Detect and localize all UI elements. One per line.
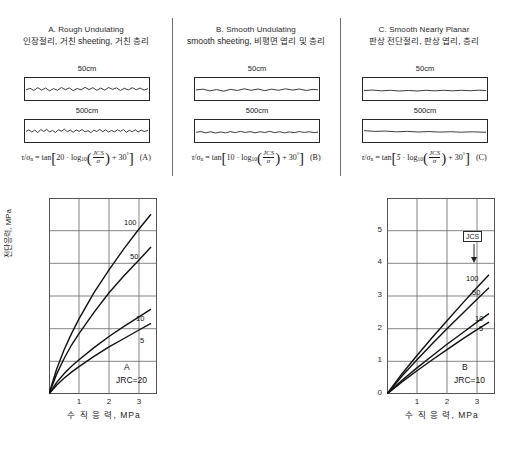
formula-c-frac-num: JCS	[429, 150, 440, 157]
formula-b-coefficient: 10	[227, 153, 235, 162]
chart-a-curve-label-10: 10	[136, 314, 144, 323]
dimension-label: 50cm	[244, 64, 270, 73]
formula-b-tag: (B)	[310, 153, 321, 162]
formula-b-frac-num: JCS	[263, 150, 274, 157]
dimension-50cm: 50cm	[24, 66, 150, 77]
formula-c-lhs-den-sub: n	[370, 156, 373, 162]
column-b: B. Smooth Undulating smooth sheeting, 비평…	[172, 0, 340, 452]
profile-trace-smooth-undulating	[195, 78, 319, 100]
formula-a-lhs-den-sub: n	[30, 156, 33, 162]
chart-a-curve-label-5: 5	[140, 336, 144, 345]
dimension-500cm: 500cm	[24, 108, 150, 119]
dimension-label: 50cm	[74, 64, 100, 73]
dimension-50cm: 50cm	[194, 66, 320, 77]
chart-a-ylabel: 전단응력, MPa	[2, 209, 13, 258]
dimension-label-wrap: 50cm	[362, 64, 488, 73]
dimension-label-wrap: 500cm	[194, 106, 320, 115]
formula-a-tag: (A)	[140, 153, 151, 162]
dimension-500cm: 500cm	[362, 108, 488, 119]
chart-a-svg	[49, 198, 157, 394]
column-a-profile-500cm: 500cm	[24, 108, 150, 143]
column-a-title-ko: 인장절리, 거친 sheeting, 거친 층리	[2, 35, 170, 47]
chart-a-plot	[49, 198, 157, 394]
profile-box	[24, 77, 150, 101]
formula-a-fn: tan	[42, 153, 52, 162]
column-c-title-ko: 판상 전단절리, 판상 엽리, 층리	[340, 35, 506, 47]
dimension-label: 500cm	[410, 106, 441, 115]
profile-trace-nearly-planar-long	[363, 120, 487, 142]
formula-a-frac-num: JCS	[93, 150, 104, 157]
profile-box	[24, 119, 150, 143]
chart-a-xtick-3: 3	[133, 397, 145, 406]
column-c-profile-500cm: 500cm	[362, 108, 488, 143]
profile-box	[194, 77, 320, 101]
profile-box	[194, 119, 320, 143]
profile-box	[362, 77, 488, 101]
dimension-label-wrap: 500cm	[362, 106, 488, 115]
jrc-shear-strength-figure: A. Rough Undulating 인장절리, 거친 sheeting, 거…	[0, 0, 506, 452]
formula-b-lhs-num: τ	[191, 153, 194, 162]
column-c-profile-50cm: 50cm	[362, 66, 488, 101]
profile-trace-nearly-planar	[363, 78, 487, 100]
column-a-profile-50cm: 50cm	[24, 66, 150, 101]
dimension-label-wrap: 500cm	[24, 106, 150, 115]
column-a-title-en: A. Rough Undulating	[2, 24, 170, 35]
formula-b-fn: tan	[212, 153, 222, 162]
dimension-500cm: 500cm	[194, 108, 320, 119]
chart-a-jrc-label: JRC=20	[116, 375, 147, 385]
column-c-title-en: C. Smooth Nearly Planar	[340, 24, 506, 35]
chart-a-xlabel: 수 직 응 력, MPa	[44, 408, 164, 420]
column-b-title-en: B. Smooth Undulating	[172, 24, 340, 35]
chart-a-curve-label-50: 50	[130, 252, 138, 261]
formula-a-frac-den: σ	[93, 157, 104, 165]
column-b-profile-500cm: 500cm	[194, 108, 320, 143]
formula-a-coefficient: 20	[56, 153, 64, 162]
formula-a: τ/σn = tan[20 · log10(JCSσ) + 30°] (A)	[8, 150, 164, 166]
column-c: C. Smooth Nearly Planar 판상 전단절리, 판상 엽리, …	[340, 0, 506, 452]
formula-c-frac-den: σ	[429, 157, 440, 165]
dimension-50cm: 50cm	[362, 66, 488, 77]
column-b-profile-50cm: 50cm	[194, 66, 320, 101]
formula-b-addend: 30	[289, 153, 297, 162]
dimension-label-wrap: 50cm	[194, 64, 320, 73]
formula-b-frac-den: σ	[263, 157, 274, 165]
formula-a-lhs-num: τ	[21, 153, 24, 162]
formula-c-tag: (C)	[476, 153, 487, 162]
formula-b: τ/σn = tan[10 · log10(JCSσ) + 30°] (B)	[178, 150, 334, 166]
formula-b-lhs-den-sub: n	[200, 156, 203, 162]
formula-c-lhs-num: τ	[361, 153, 364, 162]
profile-box	[362, 119, 488, 143]
formula-c-addend: 30	[455, 153, 463, 162]
column-b-heading: B. Smooth Undulating smooth sheeting, 비평…	[172, 24, 340, 47]
formula-c-fn: tan	[382, 153, 392, 162]
formula-c-coefficient: 5	[397, 153, 401, 162]
chart-a-panel-letter: A	[124, 362, 130, 372]
formula-c: τ/σn = tan[5 · log10(JCSσ) + 30°] (C)	[346, 150, 502, 166]
dimension-label: 50cm	[412, 64, 438, 73]
column-a: A. Rough Undulating 인장절리, 거친 sheeting, 거…	[2, 0, 170, 452]
chart-a-xtick-2: 2	[103, 397, 115, 406]
column-c-heading: C. Smooth Nearly Planar 판상 전단절리, 판상 엽리, …	[340, 24, 506, 47]
chart-a-xtick-1: 1	[73, 397, 85, 406]
dimension-label: 500cm	[72, 106, 103, 115]
dimension-label-wrap: 50cm	[24, 64, 150, 73]
column-b-title-ko: smooth sheeting, 비평면 엽리 및 층리	[172, 35, 340, 47]
profile-trace-smooth-undulating-long	[195, 120, 319, 142]
profile-trace-rough-long	[25, 120, 149, 142]
profile-trace-rough	[25, 78, 149, 100]
chart-a-curve-label-100: 100	[124, 218, 137, 227]
column-a-heading: A. Rough Undulating 인장절리, 거친 sheeting, 거…	[2, 24, 170, 47]
dimension-label: 500cm	[242, 106, 273, 115]
